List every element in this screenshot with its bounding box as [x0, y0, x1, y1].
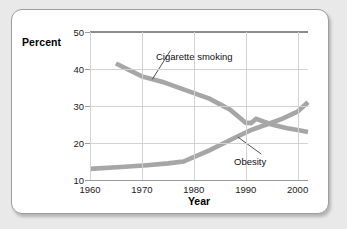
gridline-horizontal	[90, 180, 308, 181]
y-axis-title: Percent	[22, 36, 61, 48]
y-axis-tick-mark	[85, 180, 90, 181]
x-axis-tick-label: 1960	[79, 184, 100, 195]
gridline-horizontal	[90, 143, 308, 144]
y-axis-tick-label: 20	[73, 138, 84, 149]
gridline-vertical	[142, 32, 143, 180]
series-label-obesity: Obesity	[234, 156, 266, 167]
figure-card: Percent 102030405019601970198019902000 Y…	[11, 9, 329, 214]
gridline-horizontal	[90, 31, 308, 33]
y-axis-tick-label: 40	[73, 64, 84, 75]
leader-line-obesity	[238, 137, 261, 154]
x-axis-tick-label: 2000	[287, 184, 308, 195]
gridline-vertical	[298, 32, 299, 180]
x-axis-tick-label: 1970	[131, 184, 152, 195]
x-axis-title: Year	[90, 195, 308, 207]
gridline-vertical	[90, 32, 91, 180]
x-axis-tick-label: 1990	[235, 184, 256, 195]
series-line-obesity	[90, 102, 308, 169]
gridline-horizontal	[90, 69, 308, 70]
line-chart: Percent 102030405019601970198019902000 Y…	[12, 10, 330, 215]
y-axis-tick-label: 50	[73, 27, 84, 38]
x-axis-tick-label: 1980	[183, 184, 204, 195]
series-label-cigarette-smoking: Cigarette smoking	[156, 51, 233, 62]
gridline-horizontal	[90, 106, 308, 107]
y-axis-tick-label: 30	[73, 101, 84, 112]
